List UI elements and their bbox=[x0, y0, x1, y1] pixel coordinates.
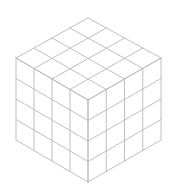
isometric-cube-grid bbox=[0, 0, 174, 192]
cube-top-face bbox=[16, 18, 161, 100]
cube-left-face bbox=[16, 58, 88, 182]
cube-right-face bbox=[88, 58, 161, 182]
cube-diagram bbox=[0, 0, 174, 192]
